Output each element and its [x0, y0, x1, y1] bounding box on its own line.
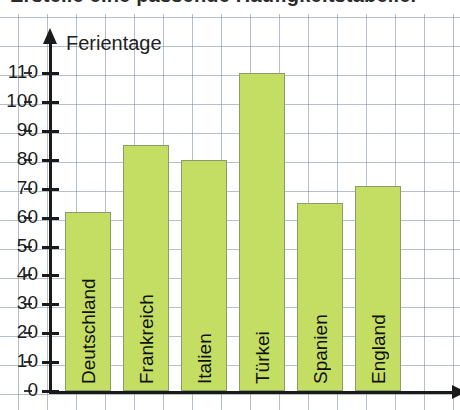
y-axis-title: Ferientage [66, 32, 162, 55]
bar-spanien[interactable]: Spanien [297, 203, 343, 391]
bar-trkei[interactable]: Türkei [239, 73, 285, 391]
x-axis-line [49, 391, 455, 394]
y-tick-label: 30 [0, 292, 38, 314]
y-tick-label: 90 [0, 119, 38, 141]
y-tick-label: 20 [0, 321, 38, 343]
y-tick-mark [42, 217, 59, 220]
y-tick-label: 60 [0, 206, 38, 228]
y-tick-mark [42, 274, 59, 277]
y-tick-mark [42, 332, 59, 335]
graph-paper-sheet: Ferientage 0102030405060708090100110 Deu… [0, 14, 460, 410]
y-tick-mark [42, 390, 59, 393]
y-tick-mark [42, 188, 59, 191]
x-axis-arrow-icon [452, 385, 460, 399]
y-tick-mark [42, 72, 59, 75]
y-tick-label: 80 [0, 148, 38, 170]
y-tick-mark [42, 246, 59, 249]
bar-italien[interactable]: Italien [181, 160, 227, 391]
y-tick-mark [42, 159, 59, 162]
y-tick-label: 40 [0, 263, 38, 285]
y-tick-label: 100 [0, 90, 38, 112]
bar-frankreich[interactable]: Frankreich [123, 145, 169, 391]
y-tick-mark [42, 361, 59, 364]
instruction-text: Erstelle eine passende Häufigkeitstabell… [10, 0, 460, 10]
y-tick-label: 10 [0, 350, 38, 372]
y-tick-label: 50 [0, 235, 38, 257]
bar-deutschland[interactable]: Deutschland [65, 212, 111, 391]
y-tick-mark [42, 101, 59, 104]
y-tick-label: 0 [0, 379, 38, 401]
y-tick-label: 70 [0, 177, 38, 199]
y-tick-label: 110 [0, 61, 38, 83]
y-tick-mark [42, 303, 59, 306]
bar-england[interactable]: England [355, 186, 401, 391]
y-tick-mark [42, 130, 59, 133]
y-axis-arrow-icon [43, 28, 57, 44]
